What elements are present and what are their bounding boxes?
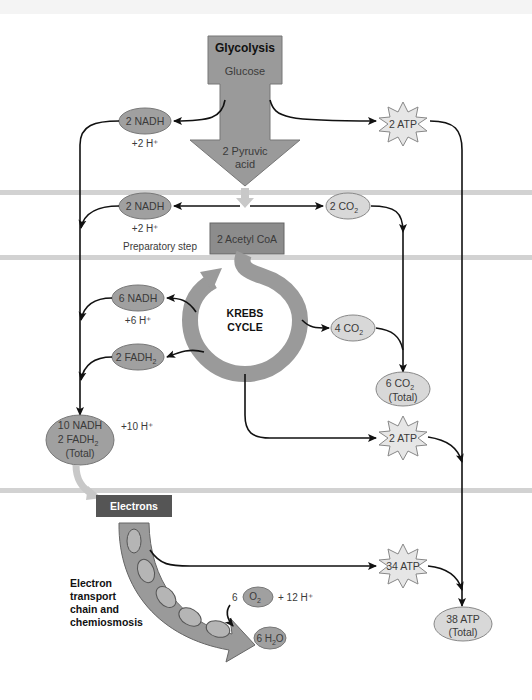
krebs-cycle-ring: KREBS CYCLE [190, 254, 300, 374]
krebs-fadh2-out [81, 357, 112, 380]
glycolysis-hplus: +2 H⁺ [132, 138, 158, 149]
glycolysis-arrow: Glycolysis Glucose 2 Pyruvic acid [190, 36, 300, 186]
krebs-fadh2-label: 2 FADH2 [116, 351, 157, 365]
top-band [0, 0, 532, 14]
etc-hplus: + 12 H⁺ [278, 592, 313, 603]
total-hplus: +10 H⁺ [121, 421, 153, 432]
electrons-label: Electrons [110, 500, 158, 512]
acetyl-coa-label: 2 Acetyl CoA [217, 233, 277, 245]
glucose-label: Glucose [225, 65, 265, 77]
o2-coef: 6 [232, 592, 238, 603]
glycolysis-nadh-arrow [174, 100, 225, 121]
etc-atp-star: 34 ATP [379, 544, 427, 588]
co2-total-label-1: 6 CO2 [386, 377, 415, 391]
krebs-atp-label: 2 ATP [389, 432, 417, 444]
prep-hplus: +2 H⁺ [132, 223, 158, 234]
co2-total-label-2: (Total) [388, 391, 417, 403]
etc-label-2: transport [70, 590, 117, 602]
cellular-respiration-diagram: Glycolysis Glucose 2 Pyruvic acid 2 NADH… [0, 0, 532, 700]
etc-label-1: Electron [70, 577, 112, 589]
nadh-total-label-3: (Total) [65, 447, 94, 459]
glycolysis-atp-label: 2 ATP [389, 118, 417, 130]
nadh-total-label-2: 2 FADH2 [58, 433, 99, 447]
prep-co2-out [371, 206, 403, 232]
krebs-atp-star: 2 ATP [379, 416, 427, 460]
etc-atp-arrow [150, 550, 376, 566]
krebs-nadh-label: 6 NADH [119, 292, 158, 304]
krebs-atp-arrow [245, 374, 376, 438]
krebs-co2-out [376, 328, 403, 350]
glycolysis-nadh-out [80, 121, 119, 145]
glycolysis-atp-out [430, 121, 462, 150]
preparatory-step-label: Preparatory step [123, 241, 197, 252]
krebs-label-2: CYCLE [227, 321, 263, 333]
membrane-band-3 [0, 488, 532, 493]
etc-atp-out [428, 566, 462, 590]
atp-total-label-1: 38 ATP [446, 613, 480, 625]
glycolysis-title: Glycolysis [215, 41, 275, 55]
pyruvic-label-1: 2 Pyruvic [222, 145, 268, 157]
krebs-atp-out [428, 437, 462, 462]
atp-total-label-2: (Total) [448, 626, 477, 638]
glycolysis-atp-arrow [270, 100, 376, 121]
krebs-co2-label: 4 CO2 [335, 322, 364, 336]
prep-nadh-label: 2 NADH [126, 200, 165, 212]
prep-nadh-out [81, 206, 119, 228]
nadh-total-label-1: 10 NADH [58, 419, 102, 431]
etc-label-4: chemiosmosis [70, 616, 143, 628]
etc-atp-label: 34 ATP [386, 560, 420, 572]
etc-label-3: chain and [70, 603, 119, 615]
pyruvic-label-2: acid [235, 158, 255, 170]
krebs-nadh-out [81, 298, 112, 320]
glycolysis-atp-star: 2 ATP [379, 102, 427, 146]
krebs-label-1: KREBS [227, 307, 264, 319]
krebs-hplus: +6 H⁺ [125, 315, 151, 326]
glycolysis-nadh-label: 2 NADH [126, 115, 165, 127]
prep-co2-label: 2 CO2 [330, 200, 359, 214]
diagram-canvas: Glycolysis Glucose 2 Pyruvic acid 2 NADH… [0, 0, 532, 700]
